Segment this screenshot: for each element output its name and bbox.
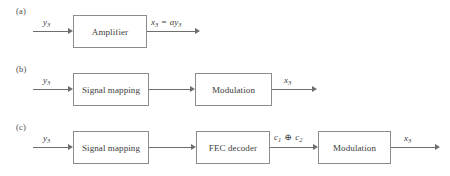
block-modulation-c-label: Modulation [333, 143, 376, 153]
panel-label-a: (a) [16, 6, 26, 16]
output-arrowhead-a [195, 28, 200, 34]
output-line-a [147, 31, 195, 32]
output-signal-label-c: x3 [404, 133, 411, 143]
input-line-c [33, 147, 68, 148]
output-signal-label-b: x3 [284, 75, 291, 85]
output-arrowhead-b [312, 86, 317, 92]
block-amplifier-label: Amplifier [92, 27, 128, 37]
block-signal-mapping-b: Signal mapping [73, 73, 149, 106]
input-signal-text-c: y3 [43, 133, 50, 143]
input-signal-label-a: y3 [43, 17, 50, 27]
block-amplifier: Amplifier [73, 15, 147, 48]
block-modulation-c: Modulation [318, 131, 391, 164]
input-signal-text-a: y3 [43, 17, 50, 27]
input-signal-label-b: y3 [43, 75, 50, 85]
output-signal-label-a: x3 = ay3 [151, 17, 182, 27]
connector-line-c1 [149, 147, 191, 148]
intermediate-signal-label-c: c1 ⊕ c2 [274, 132, 303, 142]
output-signal-text-c: x3 [404, 133, 411, 143]
input-signal-label-c: y3 [43, 133, 50, 143]
output-arrowhead-c [435, 144, 440, 150]
panel-label-c: (c) [16, 122, 26, 132]
output-signal-text-a: x3 = ay3 [151, 17, 182, 27]
output-line-c [391, 147, 435, 148]
block-signal-mapping-b-label: Signal mapping [82, 85, 140, 95]
diagram-row-a: (a) y3 Amplifier x3 = ay3 [0, 0, 450, 58]
input-line-a [33, 31, 68, 32]
panel-label-b: (b) [16, 64, 27, 74]
block-modulation-b-label: Modulation [212, 85, 255, 95]
block-fec-decoder-label: FEC decoder [209, 143, 257, 153]
connector-line-b1 [149, 89, 190, 90]
block-fec-decoder: FEC decoder [196, 131, 270, 164]
connector-line-c2 [270, 147, 313, 148]
input-signal-text-b: y3 [43, 75, 50, 85]
diagram-row-b: (b) y3 Signal mapping Modulation x3 [0, 58, 450, 116]
output-line-b [272, 89, 312, 90]
block-signal-mapping-c-label: Signal mapping [82, 143, 140, 153]
diagram-row-c: (c) y3 Signal mapping FEC decoder c1 ⊕ c… [0, 116, 450, 174]
output-signal-text-b: x3 [284, 75, 291, 85]
block-signal-mapping-c: Signal mapping [73, 131, 149, 164]
block-modulation-b: Modulation [195, 73, 272, 106]
intermediate-signal-text-c: c1 ⊕ c2 [274, 132, 303, 142]
block-diagram-figure: (a) y3 Amplifier x3 = ay3 (b) y3 Signal … [0, 0, 450, 176]
input-line-b [33, 89, 68, 90]
